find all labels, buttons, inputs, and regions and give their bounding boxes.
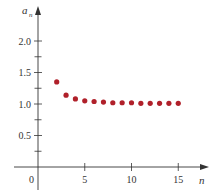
y-axis-arrow-icon [35, 6, 41, 15]
data-point [166, 101, 171, 106]
data-point [138, 101, 143, 106]
tick-marks: 510150.51.01.52.0 [19, 36, 184, 186]
y-axis-title: a [22, 4, 28, 16]
sequence-scatter-chart: 510150.51.01.52.0 a n n 0 [0, 0, 217, 195]
y-tick-label: 2.0 [19, 36, 32, 47]
y-axis-title-subscript: n [29, 11, 33, 19]
data-point [148, 101, 153, 106]
data-points [54, 79, 181, 106]
y-tick-label: 1.0 [19, 99, 32, 110]
x-axis-arrow-icon [200, 164, 209, 170]
data-point [157, 101, 162, 106]
data-point [92, 99, 97, 104]
data-point [110, 100, 115, 105]
y-tick-label: 1.5 [19, 67, 32, 78]
data-point [129, 100, 134, 105]
data-point [73, 96, 78, 101]
x-tick-label: 10 [127, 174, 137, 185]
origin-label: 0 [29, 174, 34, 185]
x-axis-title: n [199, 174, 205, 186]
data-point [54, 79, 59, 84]
data-point [63, 93, 68, 98]
data-point [120, 100, 125, 105]
x-tick-label: 15 [173, 174, 183, 185]
y-tick-label: 0.5 [19, 130, 32, 141]
data-point [82, 98, 87, 103]
data-point [176, 101, 181, 106]
x-tick-label: 5 [82, 174, 87, 185]
data-point [101, 100, 106, 105]
axes [14, 6, 209, 190]
